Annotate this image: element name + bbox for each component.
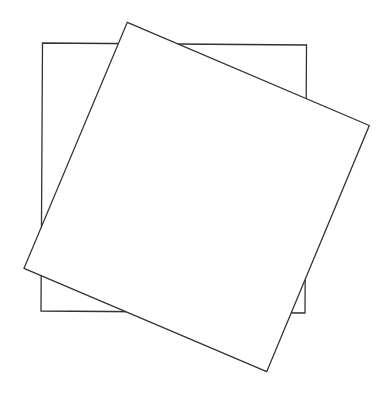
diagram-canvas [0, 0, 389, 399]
overlapping-squares-diagram [0, 0, 389, 399]
